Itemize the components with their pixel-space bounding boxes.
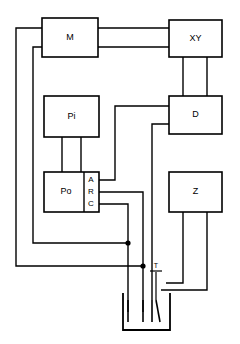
wire-d-to-cell: [152, 124, 169, 300]
wire-r-to-lower-node: [99, 192, 143, 312]
electrode-tilted: [156, 300, 160, 322]
block-po[interactable]: Po A R C: [44, 172, 99, 212]
block-diagram-canvas: T M XY Pi D Po A R C: [0, 0, 240, 344]
schematic-svg: T M XY Pi D Po A R C: [0, 0, 240, 344]
block-z-label: Z: [193, 186, 199, 196]
wire-z-left-down: [166, 212, 183, 283]
wire-layer: [16, 28, 207, 312]
terminal-a-label: A: [88, 175, 94, 184]
junction-lower: [140, 263, 145, 268]
block-pi[interactable]: Pi: [44, 96, 99, 137]
block-z[interactable]: Z: [169, 172, 222, 212]
terminal-c-label: C: [88, 199, 94, 208]
block-xy-label: XY: [189, 33, 201, 43]
block-m-label: M: [66, 32, 74, 42]
wire-z-right-down: [161, 212, 207, 290]
wire-a-to-d: [99, 106, 169, 180]
wire-m-left-outer: [16, 28, 143, 266]
junction-upper: [125, 240, 130, 245]
block-po-label: Po: [60, 186, 71, 196]
electrochemical-cell-outline: [123, 293, 170, 330]
block-d-label: D: [192, 109, 199, 119]
probe-label: T: [154, 262, 159, 269]
block-m[interactable]: M: [42, 18, 98, 57]
terminal-r-label: R: [88, 187, 94, 196]
block-d[interactable]: D: [169, 96, 222, 134]
block-xy[interactable]: XY: [169, 20, 222, 57]
vessel-group: [123, 293, 170, 330]
block-pi-label: Pi: [67, 111, 75, 121]
